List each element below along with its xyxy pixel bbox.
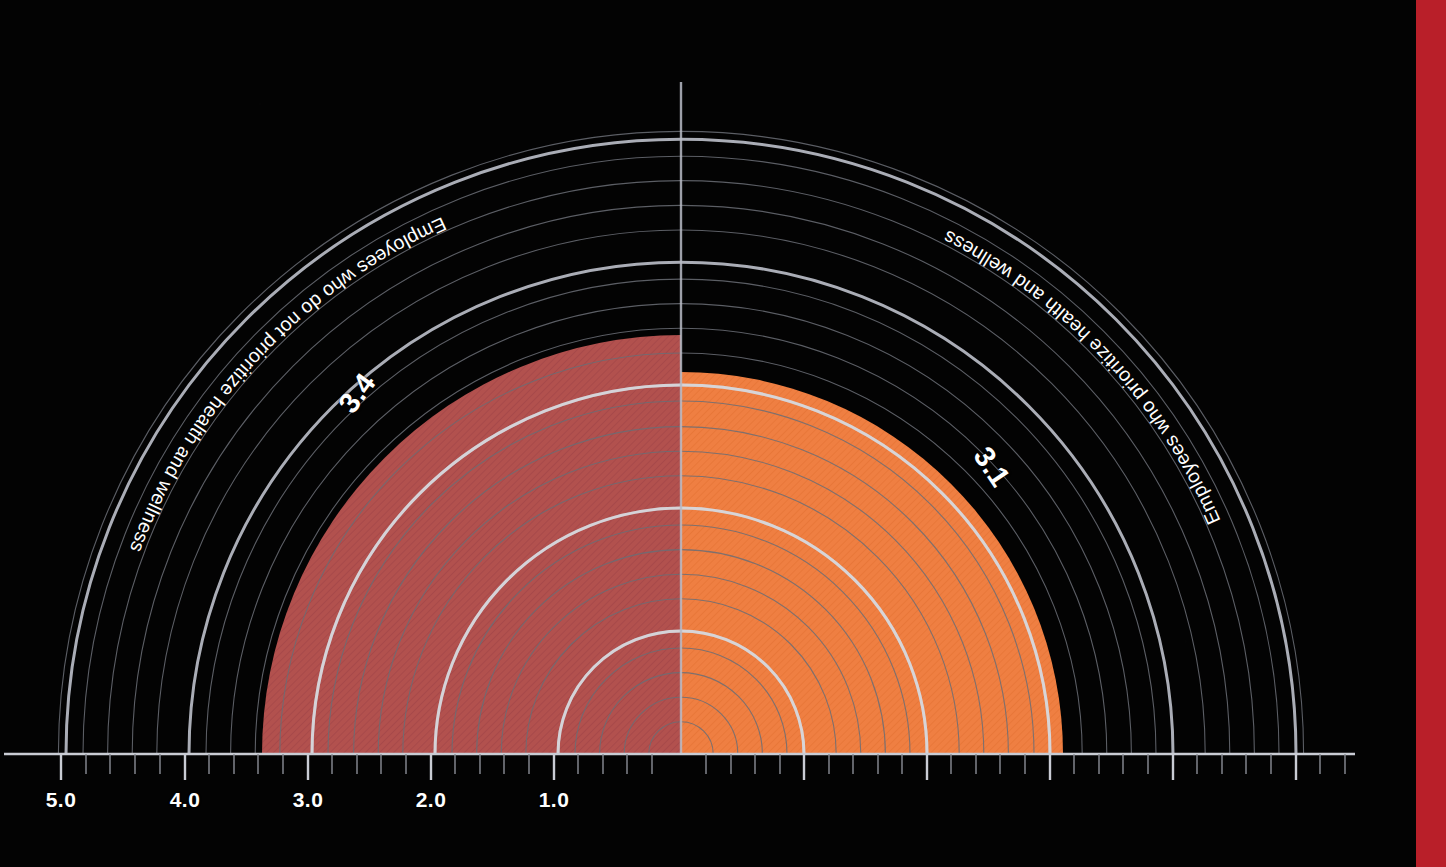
axis-tick-label-4: 4.0 [170, 788, 201, 812]
axis-tick-label-3: 3.0 [293, 788, 324, 812]
chart-canvas: Employees who do not prioritize health a… [0, 0, 1446, 867]
radial-comparison-chart: Employees who do not prioritize health a… [0, 0, 1446, 867]
axis-tick-label-2: 2.0 [416, 788, 447, 812]
accent-sidebar [1416, 0, 1446, 867]
axis-tick-label-1: 1.0 [539, 788, 570, 812]
axis-tick-label-5: 5.0 [46, 788, 77, 812]
